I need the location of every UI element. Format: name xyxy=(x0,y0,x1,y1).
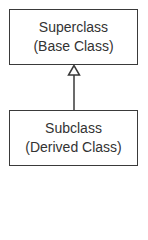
subclass-subtitle: (Derived Class) xyxy=(25,138,121,157)
subclass-box: Subclass (Derived Class) xyxy=(9,110,138,166)
subclass-name: Subclass xyxy=(45,119,102,138)
hollow-triangle-arrowhead-icon xyxy=(69,66,80,76)
